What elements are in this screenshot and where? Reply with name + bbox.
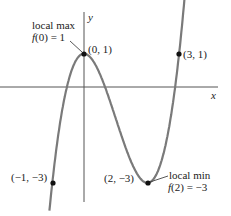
point-local-min	[145, 180, 150, 185]
max-leader-line	[70, 41, 82, 52]
point-max-label: (0, 1)	[88, 44, 112, 55]
x-axis-label: x	[211, 90, 216, 101]
local-max-value: (0) = 1	[35, 31, 65, 43]
local-max-label-line1: local max	[32, 20, 75, 31]
local-max-label-line2: f(0) = 1	[32, 32, 65, 43]
y-axis-label: y	[88, 12, 93, 23]
local-min-label-line2: f(2) = −3	[168, 182, 207, 193]
point-3-1	[176, 51, 181, 56]
point-neg1-neg3-label: (−1, −3)	[11, 172, 47, 183]
point-neg1-neg3	[50, 180, 55, 185]
local-min-label-line1: local min	[169, 170, 210, 181]
local-min-value: (2) = −3	[171, 181, 207, 193]
point-min-label: (2, −3)	[104, 173, 134, 184]
point-local-max	[81, 51, 86, 56]
point-3-1-label: (3, 1)	[183, 49, 207, 60]
